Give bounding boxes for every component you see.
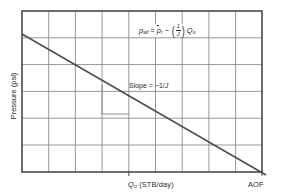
equation-rate: Qo (187, 27, 196, 35)
equation-fraction-denominator: J (177, 32, 180, 38)
equation-equals: = (150, 27, 155, 35)
equation-lhs-sub: wf (143, 28, 148, 34)
x-axis-label-sub: o (134, 183, 137, 189)
equation-minus: − (164, 27, 169, 35)
slope-value: −1/ (155, 82, 165, 89)
equation-pr-var: p (157, 27, 161, 35)
equation-paren-open: ( (172, 26, 175, 36)
x-axis-label-units: (STB/day) (139, 180, 174, 189)
equation-pr-sub: r (161, 28, 163, 34)
equation-paren-close: ) (182, 26, 185, 36)
slope-annotation: Slope = −1/J (129, 82, 168, 89)
ipr-equation: pwf = pr − ( 1 J ) Qo (138, 24, 197, 37)
equation-fraction: 1 J (176, 24, 181, 37)
x-axis-label: Qo (STB/day) (128, 180, 174, 189)
aof-label: AOF (248, 180, 264, 189)
equation-fraction-group: ( 1 J ) (171, 24, 185, 37)
y-axis-label-wrapper: Pressure (psi) (6, 40, 20, 152)
equation-lhs: pwf (139, 27, 148, 35)
slope-prefix: Slope = (129, 82, 155, 89)
ipr-chart-figure: Pressure (psi) Qo (STB/day) AOF Slope = … (0, 0, 284, 196)
equation-reservoir-pressure: pr (157, 27, 163, 35)
equation-fraction-numerator: 1 (177, 24, 180, 30)
y-axis-label: Pressure (psi) (9, 73, 18, 120)
slope-variable: J (165, 82, 169, 89)
equation-rate-sub: o (193, 28, 196, 34)
